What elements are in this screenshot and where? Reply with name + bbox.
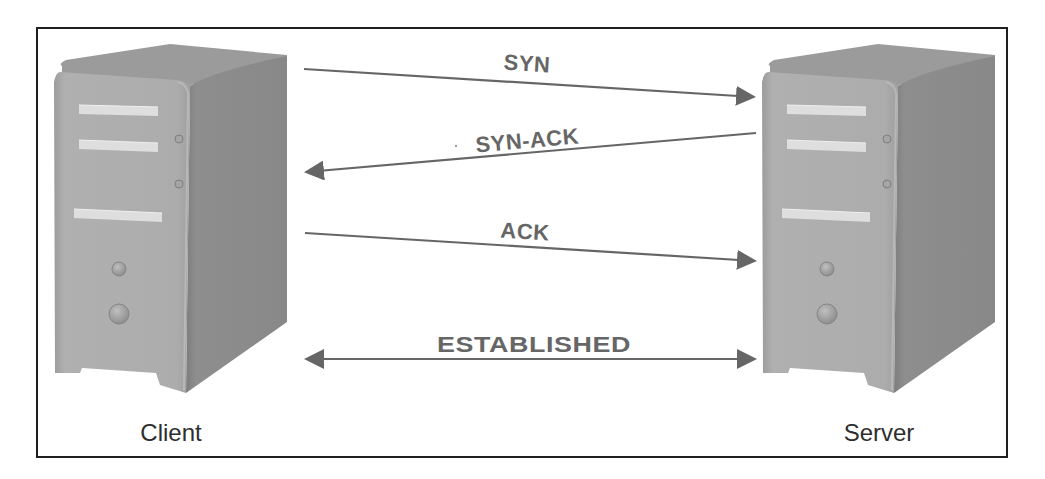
syn-label: SYN xyxy=(503,50,551,78)
server-computer-icon xyxy=(762,44,995,393)
server-label: Server xyxy=(844,419,915,446)
client-label: Client xyxy=(140,419,202,446)
syn-ack-label: SYN-ACK xyxy=(474,124,580,158)
ack-label: ACK xyxy=(500,218,551,246)
client-computer-icon xyxy=(54,44,287,393)
established-label: ESTABLISHED xyxy=(437,332,631,357)
stray-dot xyxy=(455,145,457,147)
handshake-diagram: SYN SYN-ACK ACK ESTABLISHED Client Serve… xyxy=(0,0,1045,479)
